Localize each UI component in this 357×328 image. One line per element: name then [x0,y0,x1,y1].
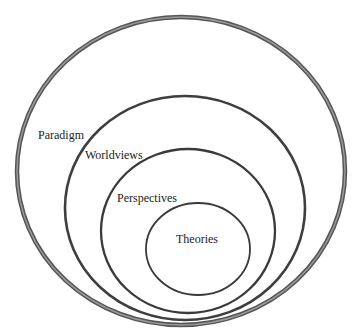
nested-ellipse-diagram: Paradigm Worldviews Perspectives Theorie… [0,0,357,328]
theories-ellipse [146,203,250,295]
paradigm-ellipse [17,17,345,325]
paradigm-label: Paradigm [38,129,84,141]
theories-label: Theories [176,233,218,245]
worldviews-label: Worldviews [85,149,143,161]
diagram-shapes [0,0,357,328]
perspectives-ellipse [101,149,275,313]
perspectives-label: Perspectives [117,192,177,204]
worldviews-ellipse [65,96,305,320]
